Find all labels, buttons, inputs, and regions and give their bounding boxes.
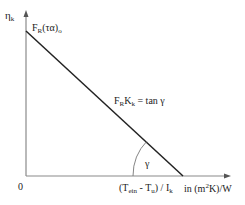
origin-label: 0 — [18, 182, 23, 192]
angle-label: γ — [145, 159, 149, 169]
y-axis-label: ηk — [5, 10, 14, 23]
x-axis-variable-label: (Tein - Tu) / Ik — [119, 183, 173, 195]
slope-label: FRKk = tan γ — [114, 96, 165, 108]
x-axis-arrow-icon — [224, 174, 231, 179]
intercept-label: FR(τα)o — [32, 23, 62, 35]
y-axis-arrow-icon — [24, 10, 29, 17]
x-axis-unit-label: in (m2K)/W — [184, 183, 232, 194]
